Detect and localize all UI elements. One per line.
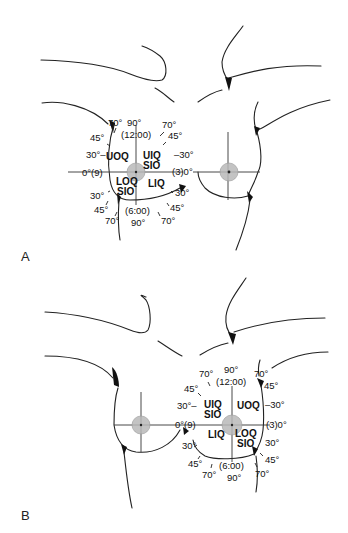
angle-45-lower-left: 45° (188, 458, 203, 469)
tick (163, 142, 166, 145)
tick (260, 453, 263, 456)
nipple (228, 171, 231, 174)
tick (114, 128, 116, 133)
angle-45-upper-left: 45° (184, 383, 199, 394)
angle-30-lower-left: 30° (90, 190, 105, 201)
clavicle-right (198, 90, 222, 102)
right-shoulder-line (229, 66, 321, 78)
angle-30-upper-left: 30°– (177, 400, 197, 411)
angle-70-bottom-right: 70° (161, 215, 176, 226)
torso-left-outline (45, 356, 113, 378)
tick (211, 464, 212, 468)
torso-right-lower (236, 200, 250, 250)
quadrant-uoq: UOQ (237, 400, 260, 411)
nipple (140, 424, 142, 426)
torso-left-outline (42, 102, 108, 124)
angle-70-top-right: 70° (162, 119, 177, 130)
nipple (231, 424, 233, 426)
angle-45-upper-left: 45° (90, 132, 105, 143)
torso-left-lower (124, 452, 132, 508)
angle-70-bottom-left: 70° (202, 469, 217, 480)
angle-70-bottom-left: 70° (105, 215, 120, 226)
angle-30-upper-right: –30° (174, 149, 194, 160)
tick (198, 393, 201, 396)
angle-30-lower-right: 30° (265, 437, 280, 448)
nipple (135, 171, 137, 173)
axilla-fold-left (112, 367, 119, 387)
left-shoulder-line (41, 46, 166, 81)
angle-90-top: 90° (224, 364, 239, 375)
clock-12: (12:00) (121, 129, 151, 140)
panel-b: UIQ SIO UOQ LIQ LOQ SIO 90° (12:00) 70° … (21, 278, 328, 523)
tick (167, 203, 169, 206)
panel-label-a: A (21, 249, 30, 264)
angle-70-top-right: 70° (254, 368, 269, 379)
quadrant-loq-sio: SIO (117, 186, 134, 197)
angle-70-top-left: 70° (199, 368, 214, 379)
angle-45-lower-right: 45° (170, 202, 185, 213)
angle-70-bottom-right: 70° (255, 468, 270, 479)
quadrant-uiq-sio: SIO (204, 409, 221, 420)
right-neck-line (226, 278, 246, 336)
quadrant-uiq-sio: SIO (143, 160, 160, 171)
clavicle-left (158, 341, 182, 356)
right-neck-line (222, 26, 243, 80)
quadrant-liq: LIQ (148, 178, 165, 189)
axilla-fold-right (228, 332, 236, 345)
left-shoulder-line (45, 295, 150, 333)
angle-45-lower-left: 45° (94, 204, 109, 215)
clock-6: (6:00) (219, 460, 244, 471)
clock-3: (3)0° (172, 166, 193, 177)
angle-30-lower-left: 30° (182, 440, 197, 451)
clock-9: 0°(9) (175, 419, 196, 430)
panel-label-b: B (21, 508, 30, 523)
angle-70-top-left: 70° (108, 117, 123, 128)
angle-30-upper-right: –30° (265, 399, 285, 410)
angle-30-upper-left: 30°– (86, 149, 106, 160)
right-shoulder-line (234, 318, 325, 332)
quadrant-uoq: UOQ (106, 151, 129, 162)
torso-right-upper (272, 352, 328, 368)
tick (158, 212, 160, 216)
angle-90-bottom: 90° (131, 217, 146, 228)
clock-6: (6:00) (125, 205, 150, 216)
angle-45-upper-right: 45° (168, 130, 183, 141)
angle-90-bottom: 90° (227, 472, 242, 483)
torso-right-upper (254, 100, 330, 130)
angle-90-top: 90° (127, 117, 142, 128)
clavicle-left (155, 88, 174, 102)
panel-a: UOQ UIQ SIO LOQ SIO LIQ 90° (12:00) 70° … (21, 26, 330, 264)
tick (208, 382, 210, 386)
angle-45-lower-right: 45° (265, 454, 280, 465)
axilla-fold-right (225, 77, 232, 91)
quadrant-liq: LIQ (208, 429, 225, 440)
axilla-fold-right-2 (257, 378, 264, 388)
angle-30-lower-right: 30° (175, 187, 190, 198)
axilla-fold-right-2 (254, 126, 260, 136)
breast-quadrant-diagram: UOQ UIQ SIO LOQ SIO LIQ 90° (12:00) 70° … (0, 0, 348, 533)
clock-3: (3)0° (266, 419, 287, 430)
clock-12: (12:00) (216, 376, 246, 387)
tick (108, 191, 110, 192)
clavicle-right (200, 343, 228, 355)
quadrant-loq-sio: SIO (237, 438, 254, 449)
clock-9: 0°(9) (82, 167, 103, 178)
angle-45-upper-right: 45° (264, 380, 279, 391)
tick (160, 132, 164, 136)
